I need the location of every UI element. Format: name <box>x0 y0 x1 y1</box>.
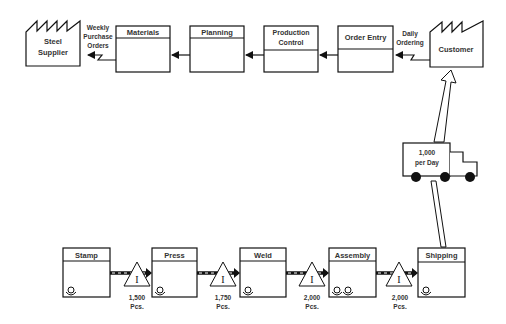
inventory-unit: Pcs. <box>216 303 230 310</box>
process-press[interactable]: Press <box>152 248 197 297</box>
inventory-qty: 2,000 <box>392 294 409 302</box>
process-label: Weld <box>254 251 272 260</box>
wheel <box>440 172 450 182</box>
flow-label-weekly: Weekly <box>87 24 110 32</box>
value-stream-map: Steel Supplier Weekly Purchase Orders Ma… <box>0 0 506 324</box>
process-assembly[interactable]: Assembly <box>329 248 376 297</box>
flow-label-purchase: Purchase <box>83 33 113 40</box>
customer[interactable]: Customer <box>430 21 483 67</box>
inventory-2[interactable]: I 1,750 Pcs. <box>210 262 236 310</box>
supplier-label-2: Supplier <box>38 48 68 57</box>
inventory-symbol: I <box>135 274 138 285</box>
truck[interactable]: 1,000 per Day <box>403 143 477 182</box>
inventory-3[interactable]: I 2,000 Pcs. <box>299 262 325 310</box>
weekly-purchase-orders-flow: Weekly Purchase Orders <box>83 24 116 60</box>
process-stamp[interactable]: Stamp <box>63 248 110 297</box>
daily-ordering-flow: Daily Ordering <box>396 30 430 60</box>
inventory-unit: Pcs. <box>305 303 319 310</box>
info-box-order-entry[interactable]: Order Entry <box>338 26 393 72</box>
inventory-symbol: I <box>221 274 224 285</box>
info-box-planning[interactable]: Planning <box>190 26 244 72</box>
shipment-arrow-to-customer <box>434 70 456 142</box>
info-box-production-control[interactable]: Production Control <box>264 26 318 72</box>
info-box-materials[interactable]: Materials <box>116 26 170 72</box>
shipment-link <box>431 181 446 247</box>
steel-supplier[interactable]: Steel Supplier <box>26 21 80 66</box>
flow-label-daily: Daily <box>402 30 418 38</box>
process-label: Shipping <box>425 251 457 260</box>
electronic-info-flow-icon <box>88 55 116 60</box>
inventory-symbol: I <box>310 274 313 285</box>
inventory-qty: 1,500 <box>129 294 146 302</box>
truck-label-freq: per Day <box>415 159 439 167</box>
process-weld[interactable]: Weld <box>240 248 286 297</box>
wheel <box>465 172 475 182</box>
process-label: Stamp <box>75 251 98 260</box>
factory-icon <box>430 21 483 67</box>
flow-label-orders: Orders <box>87 42 109 49</box>
info-box-label: Planning <box>201 28 233 37</box>
customer-label: Customer <box>438 45 473 54</box>
inventory-qty: 2,000 <box>304 294 321 302</box>
process-shipping[interactable]: Shipping <box>418 248 465 297</box>
inventory-4[interactable]: I 2,000 Pcs. <box>386 262 412 310</box>
inventory-unit: Pcs. <box>130 303 144 310</box>
flow-label-ordering: Ordering <box>396 39 423 47</box>
inventory-symbol: I <box>397 274 400 285</box>
info-box-label: Order Entry <box>345 33 388 42</box>
truck-label-qty: 1,000 <box>419 149 436 157</box>
info-box-label-2: Control <box>279 39 304 46</box>
process-label: Assembly <box>335 251 371 260</box>
info-box-label: Production <box>273 29 310 36</box>
process-label: Press <box>164 251 184 260</box>
electronic-info-flow-icon <box>396 55 430 60</box>
wheel <box>411 172 421 182</box>
info-box-label: Materials <box>127 28 160 37</box>
inventory-qty: 1,750 <box>215 294 232 302</box>
inventory-unit: Pcs. <box>393 303 407 310</box>
supplier-label-1: Steel <box>44 37 62 46</box>
